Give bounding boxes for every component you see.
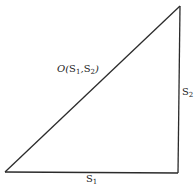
vertical-side-label: S2 xyxy=(182,87,193,99)
right-triangle-diagram xyxy=(0,0,194,185)
hyp-suffix: ) xyxy=(95,63,99,74)
hyp-prefix: O( xyxy=(57,63,69,74)
vertical-side-line xyxy=(178,6,180,173)
horizontal-side-label: S1 xyxy=(86,174,97,185)
hypotenuse-label: O(S1,S2) xyxy=(57,64,99,76)
hyp-s1: S1 xyxy=(69,63,80,74)
hyp-s2: S2 xyxy=(84,63,95,74)
hypotenuse-line xyxy=(5,6,180,172)
